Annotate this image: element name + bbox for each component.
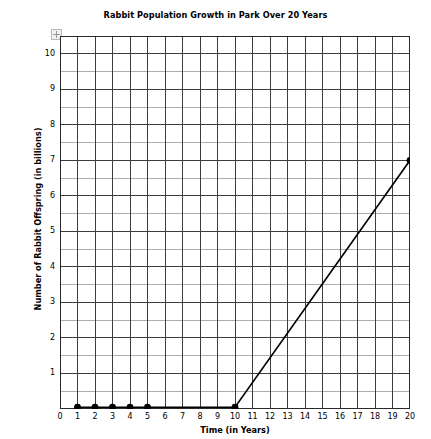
plot-area xyxy=(60,36,410,409)
data-markers xyxy=(74,157,410,409)
x-axis-label: Time (in Years) xyxy=(60,425,410,435)
data-point-marker xyxy=(74,404,81,409)
x-tick-label: 20 xyxy=(399,412,421,421)
y-tick-label: 4 xyxy=(33,262,55,271)
chart-figure: Rabbit Population Growth in Park Over 20… xyxy=(0,0,431,439)
chart-title: Rabbit Population Growth in Park Over 20… xyxy=(0,10,431,20)
data-point-marker xyxy=(407,157,410,164)
data-line xyxy=(78,160,411,407)
data-point-marker xyxy=(144,404,151,409)
grid-major-vertical xyxy=(60,36,410,409)
plot-svg xyxy=(60,36,410,409)
y-tick-label: 8 xyxy=(33,120,55,129)
y-tick-label: 5 xyxy=(33,226,55,235)
y-tick-label: 2 xyxy=(33,333,55,342)
y-tick-label: 1 xyxy=(33,368,55,377)
y-tick-label: 7 xyxy=(33,155,55,164)
y-tick-label: 6 xyxy=(33,191,55,200)
data-point-marker xyxy=(92,404,99,409)
y-tick-label: 3 xyxy=(33,297,55,306)
y-tick-label: 10 xyxy=(33,49,55,58)
data-point-marker xyxy=(127,404,134,409)
data-point-marker xyxy=(109,404,116,409)
y-tick-label: 9 xyxy=(33,84,55,93)
